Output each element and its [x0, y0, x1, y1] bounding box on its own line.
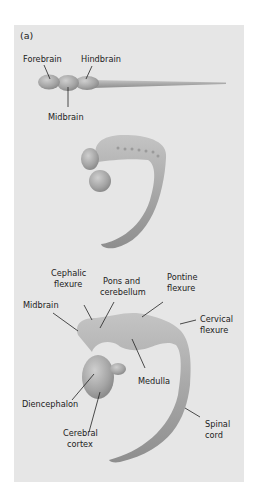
stage2-cerebral-vesicle — [89, 170, 111, 192]
diencephalon-label: Diencephalon — [22, 399, 78, 409]
pons-label-2: cerebellum — [100, 287, 146, 297]
midbrain-leader-3 — [53, 313, 78, 331]
stage2-tube-shape — [95, 135, 166, 248]
cervical-leader — [180, 320, 196, 324]
cerebral-cortex-shape — [82, 355, 114, 399]
forebrain-label: Forebrain — [23, 54, 62, 64]
stage2-forebrain — [81, 148, 99, 170]
pontine-label-1: Pontine — [167, 272, 198, 282]
cephalic-label-1: Cephalic — [51, 268, 86, 278]
spinal-label-1: Spinal — [205, 419, 230, 429]
stage2-curved-brain — [81, 135, 166, 248]
spinal-label-2: cord — [205, 430, 223, 440]
pontine-label-2: flexure — [167, 283, 195, 293]
stage3-flexed-brain: Cephalic flexure Pons and cerebellum Pon… — [22, 268, 233, 462]
midbrain-label-3: Midbrain — [23, 300, 59, 310]
spinal-tube-shape — [92, 80, 226, 88]
cerebral-label-1: Cerebral — [63, 428, 98, 438]
pons-label-1: Pons and — [103, 276, 140, 286]
midbrain-label: Midbrain — [48, 112, 84, 122]
stage1-neural-tube: Forebrain Hindbrain Midbrain — [23, 54, 226, 122]
hindbrain-label: Hindbrain — [81, 54, 121, 64]
diencephalon-shape — [110, 363, 126, 375]
panel-label: (a) — [20, 30, 33, 41]
spinal-leader — [185, 408, 200, 417]
brain-development-diagram: (a) Forebrain Hindbrain Midbrain — [0, 0, 258, 501]
cervical-label-1: Cervical — [200, 314, 233, 324]
cephalic-label-2: flexure — [54, 279, 82, 289]
cervical-label-2: flexure — [200, 325, 228, 335]
cephalic-leader — [84, 305, 92, 320]
cerebral-label-2: cortex — [67, 439, 93, 449]
medulla-label: Medulla — [138, 376, 170, 386]
pontine-leader — [142, 302, 163, 317]
